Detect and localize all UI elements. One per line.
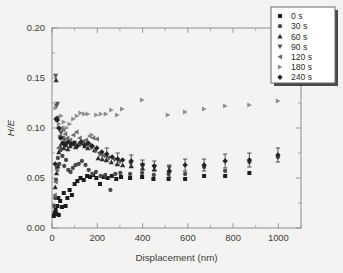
legend-label: 60 s — [291, 32, 307, 42]
data-point — [62, 164, 66, 168]
data-point — [223, 169, 227, 173]
data-point — [151, 177, 155, 181]
data-point — [52, 204, 56, 208]
chart-figure: 020040060080010000.000.050.100.150.20Dis… — [0, 0, 343, 273]
data-point — [140, 175, 144, 179]
x-tick-label: 1000 — [268, 232, 289, 243]
data-point — [54, 208, 58, 212]
data-point — [128, 176, 132, 180]
y-axis-title: H/E — [5, 119, 16, 136]
data-point — [223, 174, 227, 178]
data-point — [58, 199, 62, 203]
x-tick-label: 600 — [180, 232, 196, 243]
data-point — [68, 170, 72, 174]
data-point — [90, 172, 94, 176]
legend-label: 240 s — [291, 72, 312, 82]
data-point — [64, 204, 68, 208]
data-point — [118, 171, 122, 175]
data-point — [60, 205, 64, 209]
data-point — [60, 154, 64, 158]
data-point — [119, 175, 123, 179]
data-point — [68, 188, 72, 192]
data-point — [64, 158, 68, 162]
x-tick-label: 200 — [89, 232, 105, 243]
chart-legend: 0 s30 s60 s90 s120 s180 s240 s — [271, 7, 338, 86]
y-tick-label: 0.05 — [27, 172, 45, 183]
data-point — [77, 162, 81, 166]
data-point — [114, 177, 118, 181]
legend-label: 0 s — [291, 11, 302, 21]
x-tick-label: 800 — [225, 232, 241, 243]
data-point — [152, 173, 156, 177]
y-tick-label: 0.10 — [27, 122, 45, 133]
x-tick-label: 400 — [135, 232, 151, 243]
data-point — [103, 173, 107, 177]
data-point — [82, 178, 86, 182]
legend-label: 90 s — [291, 42, 307, 52]
data-point — [183, 177, 187, 181]
data-point — [113, 172, 117, 176]
y-tick-label: 0.20 — [27, 22, 45, 33]
legend-label: 120 s — [291, 52, 312, 62]
data-point — [140, 171, 144, 175]
data-point — [70, 193, 74, 197]
data-point — [80, 159, 84, 163]
data-point — [202, 174, 206, 178]
data-point — [108, 188, 112, 192]
data-point — [167, 177, 171, 181]
data-point — [87, 168, 91, 172]
legend-label: 180 s — [291, 62, 312, 72]
legend-marker-icon — [278, 24, 282, 28]
data-point — [65, 196, 69, 200]
data-point — [56, 156, 60, 160]
data-point — [94, 170, 98, 174]
x-tick-label: 0 — [49, 232, 54, 243]
scatter-plot: 020040060080010000.000.050.100.150.20Dis… — [0, 0, 343, 273]
y-tick-label: 0.00 — [27, 222, 45, 233]
legend-marker-icon — [278, 14, 282, 18]
data-point — [247, 171, 251, 175]
data-point — [110, 174, 114, 178]
data-point — [57, 213, 61, 217]
legend-label: 30 s — [291, 21, 307, 31]
data-point — [99, 174, 103, 178]
data-point — [62, 191, 66, 195]
data-point — [98, 182, 102, 186]
data-point — [128, 172, 132, 176]
y-tick-label: 0.15 — [27, 72, 45, 83]
x-axis-title: Displacement (nm) — [135, 252, 217, 263]
data-point — [94, 176, 98, 180]
data-point — [83, 163, 87, 167]
data-point — [183, 172, 187, 176]
